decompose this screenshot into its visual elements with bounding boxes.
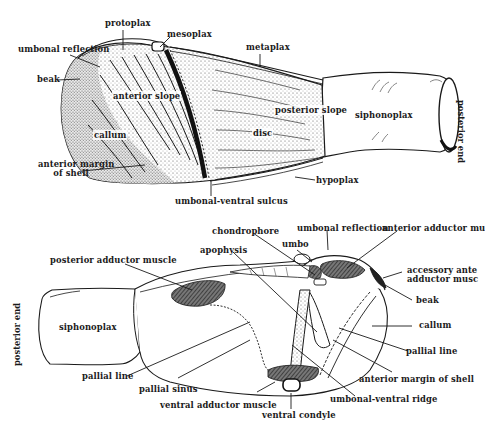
label-umbonal-ventral-sulcus: umbonal-ventral sulcus <box>175 197 288 206</box>
label-disc: disc <box>252 128 273 138</box>
label-metaplax: metaplax <box>246 43 290 52</box>
label-chondrophore: chondrophore <box>212 227 279 236</box>
label-umbo: umbo <box>282 240 309 249</box>
label-anterior-margin-top: anterior margin of shell <box>38 160 104 178</box>
label-mesoplax: mesoplax <box>167 30 212 39</box>
label-hypoplax: hypoplax <box>316 176 359 185</box>
label-anterior-margin-of-shell: anterior margin of shell <box>359 375 474 384</box>
label-callum-bottom: callum <box>419 321 451 330</box>
label-posterior-end-top: posterior end <box>456 100 466 163</box>
label-protoplax: protoplax <box>105 19 151 28</box>
label-ventral-adductor-muscle: ventral adductor muscle <box>160 401 277 410</box>
label-posterior-slope: posterior slope <box>274 105 348 115</box>
label-apophysis: apophysis <box>200 246 247 255</box>
label-posterior-end-bottom: posterior end <box>12 303 22 366</box>
label-anterior-adductor-muscle: anterior adductor mu <box>382 224 485 233</box>
label-posterior-adductor-muscle: posterior adductor muscle <box>50 256 177 265</box>
label-callum-top: callum <box>93 130 127 140</box>
label-umbonal-ventral-ridge: umbonal-ventral ridge <box>330 395 437 404</box>
label-siphonoplax-top: siphonoplax <box>355 111 413 120</box>
label-accessory-anterior-adductor-muscle: accessory ante adductor musc <box>407 266 478 284</box>
label-umbonal-reflection-top: umbonal reflection <box>18 45 109 54</box>
label-siphonoplax-bottom: siphonoplax <box>59 323 117 332</box>
label-pallial-sinus: pallial sinus <box>139 385 197 394</box>
label-ventral-condyle: ventral condyle <box>262 411 336 420</box>
label-beak-bottom: beak <box>416 296 439 305</box>
label-umbonal-reflection-bottom: umbonal reflection <box>297 224 388 233</box>
label-anterior-slope: anterior slope <box>112 91 181 101</box>
label-pallial-line-right: pallial line <box>406 347 457 356</box>
label-beak-top: beak <box>37 75 60 84</box>
label-pallial-line-left: pallial line <box>82 372 133 381</box>
